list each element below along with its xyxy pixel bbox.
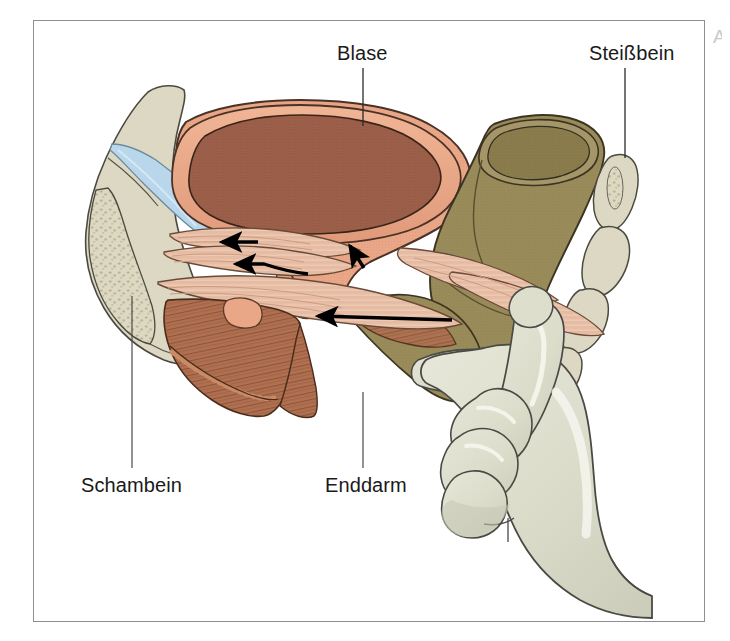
figure-page: Blase Steißbein Schambein Enddarm A [0,0,730,641]
page-edge-mark: A [713,26,722,48]
figure-frame [33,20,705,622]
label-steissbein: Steißbein [589,42,674,65]
label-enddarm: Enddarm [325,474,407,497]
label-schambein: Schambein [81,474,182,497]
label-blase: Blase [337,42,388,65]
